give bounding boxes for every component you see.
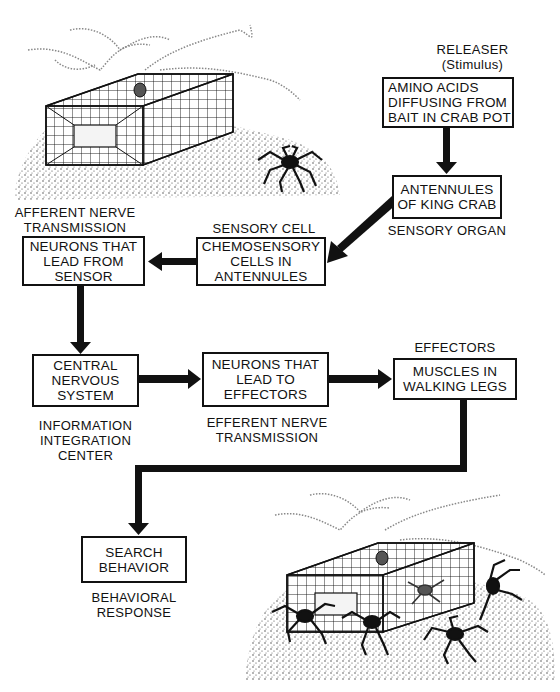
caption-releaser: RELEASER (Stimulus) xyxy=(400,42,545,72)
caption-cns: INFORMATION INTEGRATION CENTER xyxy=(28,418,143,463)
node-sensory-cell: CHEMOSENSORY CELLS IN ANTENNULES xyxy=(196,237,326,286)
node-cns: CENTRAL NERVOUS SYSTEM xyxy=(32,354,139,407)
caption-sensory-organ: SENSORY ORGAN xyxy=(382,223,512,238)
node-afferent: NEURONS THAT LEAD FROM SENSOR xyxy=(22,236,145,286)
caption-response: BEHAVIORAL RESPONSE xyxy=(80,590,188,620)
caption-effectors: EFFECTORS xyxy=(405,340,505,355)
crab-pot-illustration-bottom xyxy=(245,494,555,680)
node-response: SEARCH BEHAVIOR xyxy=(81,536,187,583)
node-stimulus: AMINO ACIDS DIFFUSING FROM BAIT IN CRAB … xyxy=(382,77,514,128)
arrow-sensory-cell-to-afferent xyxy=(148,252,197,271)
caption-sensory-cell: SENSORY CELL xyxy=(200,221,328,236)
node-efferent: NEURONS THAT LEAD TO EFFECTORS xyxy=(202,352,329,407)
caption-afferent: AFFERENT NERVE TRANSMISSION xyxy=(14,205,136,235)
arrow-cns-to-efferent xyxy=(138,369,201,389)
arrow-afferent-to-cns xyxy=(70,286,91,354)
caption-efferent: EFFERENT NERVE TRANSMISSION xyxy=(198,415,336,445)
crab-pot-illustration-top xyxy=(15,25,340,200)
arrow-efferent-to-effectors xyxy=(328,369,392,389)
node-effectors: MUSCLES IN WALKING LEGS xyxy=(393,358,517,400)
arrow-stimulus-to-sensory-organ xyxy=(436,128,457,174)
node-sensory-organ: ANTENNULES OF KING CRAB xyxy=(392,175,502,219)
